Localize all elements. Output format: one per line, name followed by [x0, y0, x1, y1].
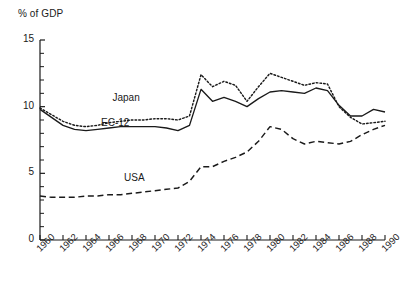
chart-axes [40, 40, 385, 240]
y-tick-label: 15 [12, 33, 34, 44]
series-line-usa [40, 125, 385, 197]
chart-figure: % of GDP 051015 196019621964196619681970… [0, 0, 405, 282]
series-label-usa: USA [124, 172, 145, 183]
y-tick-label: 10 [12, 100, 34, 111]
chart-series [40, 73, 385, 197]
y-tick-label: 5 [12, 166, 34, 177]
series-line-japan [40, 73, 385, 126]
y-tick-label: 0 [12, 233, 34, 244]
series-label-ec-12: EC-12 [101, 117, 129, 128]
series-label-japan: Japan [113, 92, 140, 103]
